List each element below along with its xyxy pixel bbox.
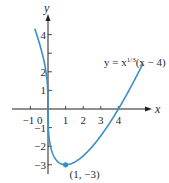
- minimum-point-label: (1, −3): [70, 168, 100, 181]
- function-plot: x y −11234 −3−2−1124 0 (1, −3) y = x1/3(…: [0, 0, 169, 183]
- x-tick-label: 3: [98, 114, 104, 126]
- x-tick-label: −1: [23, 114, 35, 126]
- equation-prefix: y = x: [104, 56, 127, 68]
- y-ticks: −3−2−1124: [34, 29, 52, 171]
- origin-label: 0: [37, 114, 43, 126]
- x-tick-label: 2: [80, 114, 86, 126]
- equation-label: y = x1/3(x − 4): [104, 56, 166, 69]
- y-axis-label: y: [43, 1, 50, 15]
- y-axis-arrow-icon: [46, 14, 51, 21]
- y-tick-label: −2: [34, 140, 46, 152]
- y-tick-label: −3: [34, 159, 46, 171]
- x-axis-arrow-icon: [145, 107, 152, 112]
- x-tick-label: 1: [63, 114, 69, 126]
- y-tick-label: 4: [41, 29, 47, 41]
- x-axis-label: x: [154, 102, 161, 116]
- x-tick-label: 4: [116, 114, 122, 126]
- minimum-point-marker: [63, 162, 68, 167]
- y-tick-label: 1: [41, 84, 47, 96]
- equation-suffix: (x − 4): [136, 56, 166, 69]
- function-curve: [35, 29, 143, 165]
